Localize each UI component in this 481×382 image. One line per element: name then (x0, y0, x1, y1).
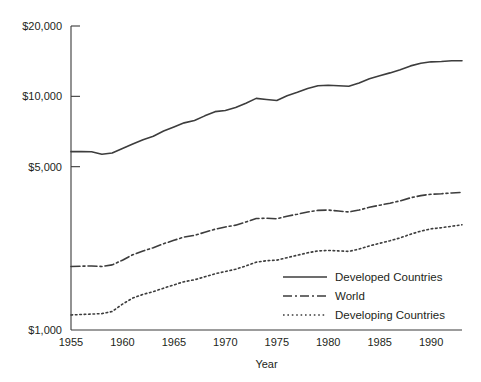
x-tick-label: 1990 (419, 336, 443, 348)
series-line-world (71, 192, 462, 266)
legend-label: Developed Countries (335, 271, 443, 283)
series-line-developing-countries (71, 225, 462, 315)
x-axis-title: Year (255, 358, 278, 370)
series-line-developed-countries (71, 61, 462, 155)
x-tick-label: 1965 (162, 336, 186, 348)
legend-label: Developing Countries (335, 309, 445, 321)
plot-frame (71, 26, 462, 330)
x-tick-label: 1985 (367, 336, 391, 348)
chart-legend: Developed CountriesWorldDeveloping Count… (283, 271, 445, 321)
x-tick-label: 1975 (265, 336, 289, 348)
x-tick-label: 1960 (110, 336, 134, 348)
y-tick-label: $5,000 (28, 161, 62, 173)
x-tick-label: 1980 (316, 336, 340, 348)
line-chart: $20,000$10,000$5,000$1,000 1955196019651… (0, 0, 481, 382)
x-tick-label: 1955 (59, 336, 83, 348)
x-axis-ticks: 19551960196519701975198019851990 (59, 336, 444, 348)
x-tick-label: 1970 (213, 336, 237, 348)
y-tick-label: $1,000 (28, 324, 62, 336)
y-tick-label: $20,000 (22, 20, 62, 32)
y-tick-label: $10,000 (22, 90, 62, 102)
legend-label: World (335, 290, 365, 302)
chart-container: $20,000$10,000$5,000$1,000 1955196019651… (0, 0, 481, 382)
